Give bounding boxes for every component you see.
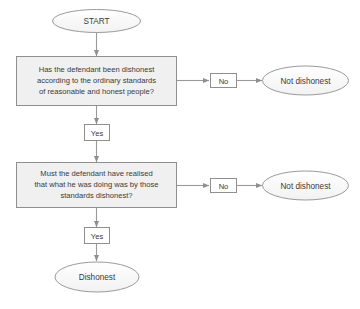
start-label: START <box>83 17 109 26</box>
node-not-dishonest-two[interactable]: Not dishonest <box>263 171 349 200</box>
edge-label-no-one[interactable]: No <box>211 74 237 88</box>
question-one-line3: of reasonable and honest people? <box>39 87 154 96</box>
question-two-line1: Must the defendant have realised <box>40 169 152 178</box>
no-one-label: No <box>219 77 229 86</box>
yes-one-label: Yes <box>91 129 104 138</box>
yes-two-label: Yes <box>91 232 104 241</box>
not-dishonest-one-label: Not dishonest <box>280 77 331 86</box>
question-two-line3: standards dishonest? <box>60 191 132 200</box>
node-question-two[interactable]: Must the defendant have realised that wh… <box>17 163 177 208</box>
node-question-one[interactable]: Has the defendant been dishonest accordi… <box>17 57 177 106</box>
question-one-line1: Has the defendant been dishonest <box>39 65 156 74</box>
node-not-dishonest-one[interactable]: Not dishonest <box>263 66 349 95</box>
question-two-line2: that what he was doing was by those <box>34 180 158 189</box>
edge-label-no-two[interactable]: No <box>211 179 237 193</box>
edge-label-yes-one[interactable]: Yes <box>85 125 110 141</box>
node-start[interactable]: START <box>53 10 141 33</box>
edge-label-yes-two[interactable]: Yes <box>85 228 110 244</box>
node-dishonest[interactable]: Dishonest <box>55 262 139 292</box>
flowchart-canvas: START Has the defendant been dishonest a… <box>0 0 360 309</box>
not-dishonest-two-label: Not dishonest <box>280 182 331 191</box>
no-two-label: No <box>219 182 229 191</box>
flowchart-svg: START Has the defendant been dishonest a… <box>0 0 360 309</box>
dishonest-label: Dishonest <box>79 273 116 282</box>
question-one-line2: according to the ordinary standards <box>37 76 156 85</box>
